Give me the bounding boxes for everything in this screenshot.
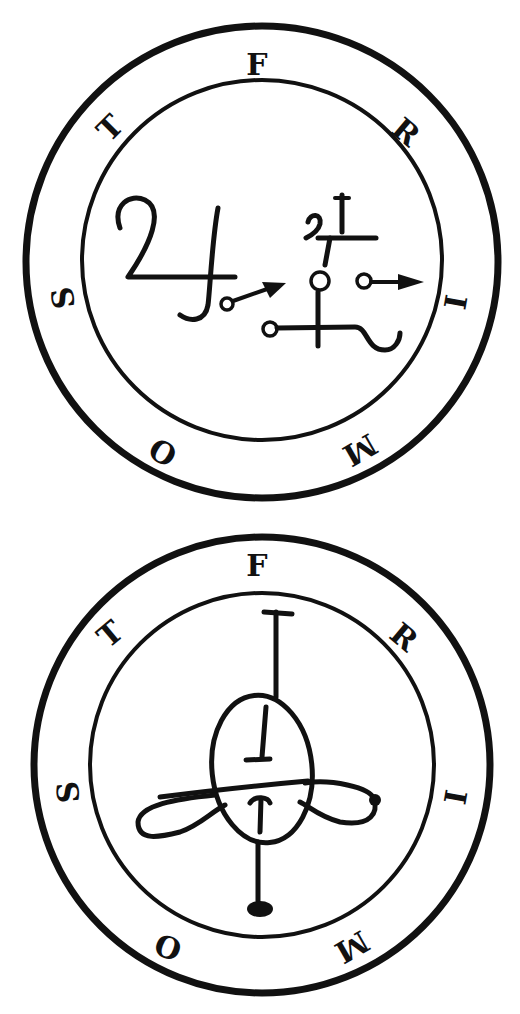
letter-i: I <box>437 292 474 312</box>
letter-r: R <box>385 111 427 155</box>
letter-s: S <box>50 780 87 805</box>
outer-ring <box>26 26 498 498</box>
inner-ring <box>90 593 434 937</box>
letter-f: F <box>246 548 267 583</box>
letter-f: F <box>246 47 267 82</box>
letter-s: S <box>44 284 82 311</box>
letter-o: O <box>150 926 187 968</box>
outer-ring <box>34 537 490 993</box>
sigil-figure <box>118 195 424 350</box>
letter-i: I <box>437 787 474 807</box>
seal-top: F R I M O S T <box>0 0 520 507</box>
seal-bottom: F R I M O S T <box>0 507 520 1014</box>
letter-t: T <box>90 613 130 655</box>
sigil-figure <box>138 612 381 917</box>
